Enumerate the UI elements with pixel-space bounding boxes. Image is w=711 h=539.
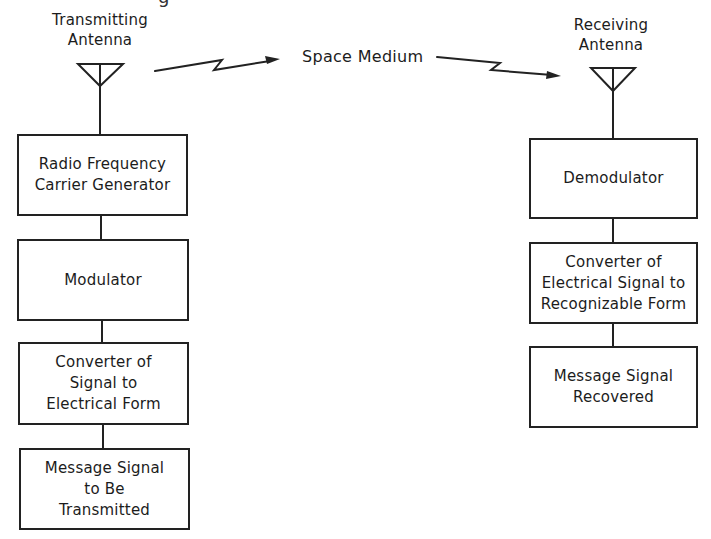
block-text-line: Message Signal (554, 366, 673, 387)
block-text-line: Message Signal (45, 458, 164, 479)
block-text-line: Signal to (70, 373, 138, 394)
lightning-arrow-icon-outgoing (155, 60, 270, 71)
block-demodulator: Demodulator (529, 138, 698, 219)
transmitting-antenna-label-line-2: Antenna (40, 30, 160, 50)
block-text-line: Recovered (573, 387, 654, 408)
block-text-line: to Be (84, 479, 124, 500)
block-text-line: Converter of (55, 352, 151, 373)
transmitting-antenna-label-line-1: Transmitting (40, 10, 160, 30)
block-message-signal-recovered: Message Signal Recovered (529, 346, 698, 428)
block-modulator: Modulator (17, 239, 189, 321)
receiving-antenna-label-line-2: Antenna (551, 35, 671, 55)
block-message-signal-source: Message Signal to Be Transmitted (19, 448, 190, 530)
block-text-line: Recognizable Form (541, 294, 687, 315)
block-text-line: Radio Frequency (39, 154, 166, 175)
receiving-antenna-label: Receiving Antenna (551, 15, 671, 55)
receiving-antenna-icon (591, 68, 635, 138)
block-text-line: Electrical Signal to (542, 273, 686, 294)
block-electrical-to-recognizable-converter: Converter of Electrical Signal to Recogn… (529, 242, 698, 324)
block-signal-to-electrical-converter: Converter of Signal to Electrical Form (18, 342, 189, 425)
block-text-line: Demodulator (563, 168, 663, 189)
block-text-line: Electrical Form (46, 394, 161, 415)
block-text-line: Converter of (565, 252, 661, 273)
receiving-antenna-label-line-1: Receiving (551, 15, 671, 35)
lightning-arrow-icon-incoming (437, 57, 552, 75)
transmitting-antenna-icon (78, 64, 123, 134)
block-rf-carrier-generator: Radio Frequency Carrier Generator (17, 134, 188, 216)
arrowhead-outgoing (265, 56, 280, 64)
space-medium-label: Space Medium (302, 47, 423, 67)
arrowhead-incoming (546, 71, 561, 79)
block-text-line: Transmitted (59, 500, 150, 521)
communication-system-diagram: g (0, 0, 711, 539)
block-text-line: Carrier Generator (35, 175, 171, 196)
transmitting-antenna-label: Transmitting Antenna (40, 10, 160, 50)
block-text-line: Modulator (64, 270, 142, 291)
